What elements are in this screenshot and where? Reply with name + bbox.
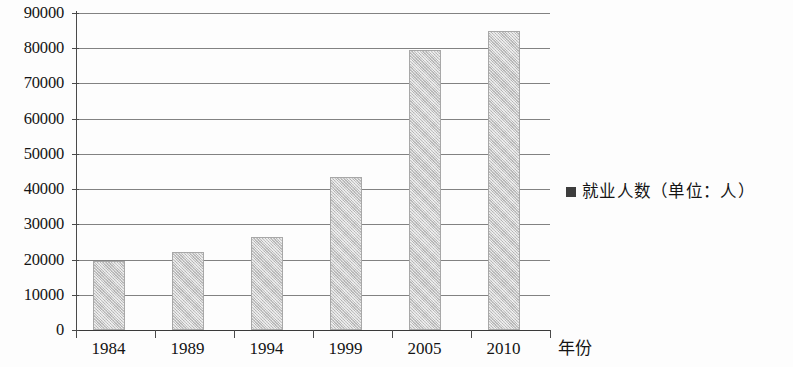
y-axis-tick xyxy=(72,154,79,155)
x-axis-tick xyxy=(313,330,314,338)
y-axis-tick-label: 70000 xyxy=(0,75,64,92)
gridline xyxy=(76,295,550,296)
y-axis-tick-label: 20000 xyxy=(0,252,64,269)
x-axis-tick xyxy=(550,330,551,338)
gridline xyxy=(76,224,550,225)
legend: 就业人数（单位：人） xyxy=(566,183,755,201)
x-axis-tick xyxy=(234,330,235,338)
x-axis-category-label: 1984 xyxy=(64,339,154,358)
gridline xyxy=(76,83,550,84)
bar xyxy=(409,50,441,330)
y-axis-tick-label: 90000 xyxy=(0,5,64,22)
x-axis-category-label: 2010 xyxy=(459,339,549,358)
y-axis-tick-label: 30000 xyxy=(0,216,64,233)
gridline xyxy=(76,48,550,49)
y-axis-tick xyxy=(72,224,79,225)
y-axis-tick xyxy=(72,48,79,49)
x-axis-category-label: 1999 xyxy=(301,339,391,358)
bar xyxy=(330,177,362,330)
y-axis-tick-label: 60000 xyxy=(0,111,64,128)
plot-area xyxy=(76,13,550,330)
y-axis-tick xyxy=(72,295,79,296)
y-axis-tick xyxy=(72,189,79,190)
y-axis-tick-label: 80000 xyxy=(0,40,64,57)
x-axis-category-label: 1994 xyxy=(222,339,312,358)
y-axis-tick-label: 40000 xyxy=(0,181,64,198)
y-axis-tick xyxy=(72,13,79,14)
bar xyxy=(251,237,283,330)
legend-label: 就业人数（单位：人） xyxy=(582,183,755,201)
gridline xyxy=(76,260,550,261)
bar xyxy=(488,31,520,330)
gridline xyxy=(76,13,550,14)
bar xyxy=(93,261,125,330)
gridline xyxy=(76,189,550,190)
x-axis-tick xyxy=(392,330,393,338)
y-axis-tick-label: 0 xyxy=(0,322,64,339)
x-axis-title: 年份 xyxy=(558,339,592,358)
x-axis-tick xyxy=(76,330,77,338)
bar-chart: 9000080000700006000050000400003000020000… xyxy=(0,0,793,367)
x-axis-category-label: 2005 xyxy=(380,339,470,358)
y-axis-tick xyxy=(72,119,79,120)
y-axis-tick-label: 50000 xyxy=(0,146,64,163)
x-axis-tick xyxy=(471,330,472,338)
gridline xyxy=(76,154,550,155)
x-axis-tick xyxy=(155,330,156,338)
gridline xyxy=(76,119,550,120)
y-axis-tick xyxy=(72,260,79,261)
legend-marker-icon xyxy=(566,187,576,197)
y-axis-tick xyxy=(72,83,79,84)
x-axis-category-label: 1989 xyxy=(143,339,233,358)
y-axis-tick-label: 10000 xyxy=(0,287,64,304)
bar xyxy=(172,252,204,330)
